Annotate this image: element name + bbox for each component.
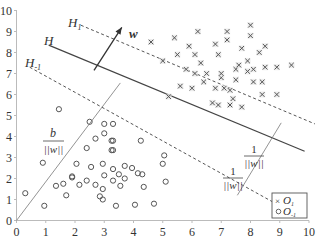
x-tick-label: 8	[248, 225, 254, 239]
y-tick-label: 2	[6, 172, 12, 186]
x-tick-label: 7	[218, 225, 224, 239]
cross-marker	[192, 71, 198, 77]
svg-text:b: b	[50, 126, 56, 140]
svg-text:1: 1	[251, 143, 257, 155]
y-tick-label: 7	[6, 67, 12, 81]
x-tick-label: 6	[189, 225, 195, 239]
cross-marker	[186, 43, 192, 49]
circle-marker	[110, 121, 115, 126]
cross-marker	[288, 62, 294, 68]
circle-marker	[132, 202, 137, 207]
cross-marker	[201, 79, 207, 85]
circle-marker	[77, 182, 82, 187]
x-tick-label: 0	[14, 225, 20, 239]
cross-marker	[245, 58, 251, 64]
cross-marker	[148, 39, 154, 45]
cross-marker	[262, 64, 268, 70]
cross-icon: ×	[275, 196, 280, 206]
series-o-minus1-points	[23, 107, 169, 209]
hyperplane-h	[49, 45, 305, 151]
circle-marker	[88, 164, 93, 169]
cross-marker	[250, 79, 256, 85]
cross-marker	[212, 41, 218, 47]
cross-marker	[221, 85, 227, 91]
cross-marker	[189, 85, 195, 91]
circle-marker	[84, 178, 89, 183]
cross-marker	[274, 64, 280, 70]
x-tick-label: 3	[101, 225, 107, 239]
circle-marker	[129, 165, 134, 170]
circle-marker	[74, 161, 79, 166]
cross-marker	[215, 102, 221, 108]
circle-marker	[100, 161, 105, 166]
x-tick-label: 9	[277, 225, 283, 239]
cross-marker	[160, 58, 166, 64]
circle-marker	[116, 172, 121, 177]
circle-marker	[23, 191, 28, 196]
circle-marker	[100, 186, 105, 191]
circle-marker	[84, 145, 89, 150]
svm-margin-chart: 012345678910 012345678910 H H1 H-1 w b |…	[0, 0, 318, 245]
y-tick-label: 4	[6, 130, 12, 144]
y-tick-label: 10	[0, 4, 12, 18]
cross-marker	[198, 60, 204, 66]
cross-marker	[192, 52, 198, 58]
circle-marker	[141, 184, 146, 189]
cross-marker	[166, 94, 172, 100]
cross-marker	[233, 77, 239, 83]
circle-marker	[151, 201, 156, 206]
circle-marker	[160, 161, 165, 166]
label-w: w	[129, 26, 138, 41]
circle-marker	[97, 194, 102, 199]
circle-marker	[122, 163, 127, 168]
y-tick-label: 5	[6, 109, 12, 123]
cross-marker	[174, 52, 180, 58]
arrowhead-icon	[115, 27, 121, 35]
x-tick-label: 5	[160, 225, 166, 239]
cross-marker	[171, 35, 177, 41]
cross-marker	[224, 37, 230, 43]
circle-marker	[102, 121, 107, 126]
label-h: H	[43, 33, 54, 48]
cross-marker	[274, 92, 280, 98]
y-axis-ticks: 012345678910	[0, 4, 17, 228]
cross-marker	[262, 43, 268, 49]
y-tick-label: 8	[6, 46, 12, 60]
distance-b-line	[17, 83, 121, 221]
circle-marker	[110, 166, 115, 171]
circle-marker	[102, 173, 107, 178]
cross-marker	[256, 50, 262, 56]
hyperplanes	[17, 25, 315, 220]
cross-marker	[239, 45, 245, 51]
circle-marker	[102, 131, 107, 136]
cross-marker	[248, 33, 254, 39]
circle-marker	[61, 181, 66, 186]
circle-marker	[110, 178, 115, 183]
x-tick-label: 2	[72, 225, 78, 239]
label-b-over-norm-w: b ||w||	[43, 126, 64, 155]
circle-marker	[42, 203, 47, 208]
y-tick-label: 1	[6, 193, 12, 207]
circle-marker	[53, 183, 58, 188]
svg-text:||w||: ||w||	[44, 143, 63, 155]
y-tick-label: 6	[6, 88, 12, 102]
circle-marker	[122, 176, 127, 181]
cross-marker	[227, 87, 233, 93]
x-axis-ticks: 012345678910	[14, 221, 316, 240]
y-tick-label: 9	[6, 25, 12, 39]
circle-marker	[162, 153, 167, 158]
y-tick-label: 3	[6, 151, 12, 165]
y-tick-label: 0	[6, 214, 12, 228]
cross-marker	[224, 29, 230, 35]
label-margin-lower: 1 ||w||	[223, 165, 243, 191]
cross-marker	[230, 96, 236, 102]
cross-marker	[245, 68, 251, 74]
cross-marker	[183, 66, 189, 72]
cross-marker	[239, 104, 245, 110]
circle-marker	[113, 203, 118, 208]
cross-marker	[259, 92, 265, 98]
x-tick-label: 1	[43, 225, 49, 239]
circle-marker	[56, 107, 61, 112]
circle-marker	[118, 183, 123, 188]
x-tick-label: 10	[303, 225, 315, 239]
